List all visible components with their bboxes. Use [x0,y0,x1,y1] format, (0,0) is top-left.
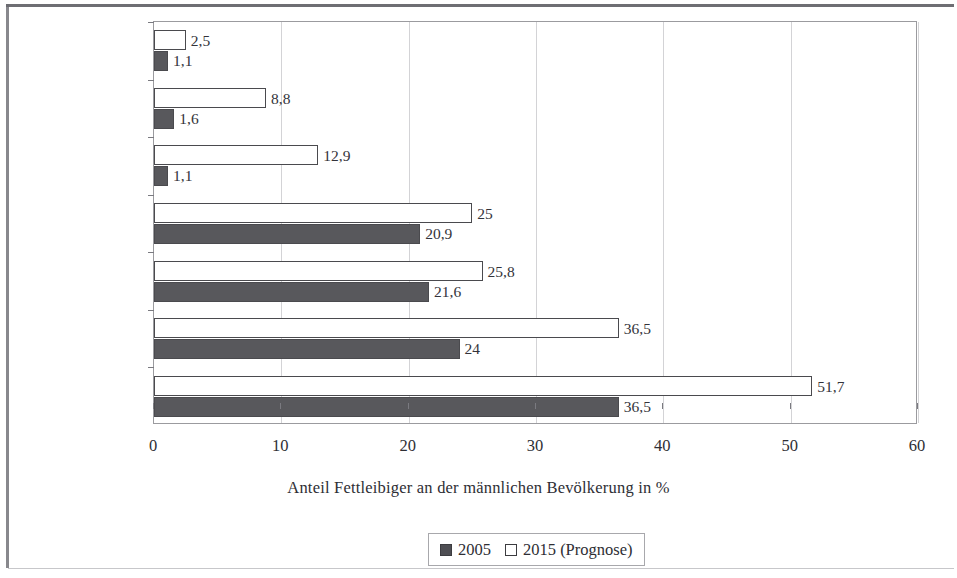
legend-label: 2005 [458,540,491,560]
bar-2005-philippinen [154,166,168,186]
bar-value-label-2015: 12,9 [323,148,350,164]
gridline-60 [918,22,919,423]
x-axis-tick-label-0: 0 [149,438,157,455]
bar-2015-philippinen [154,145,318,165]
x-axis-tick-10 [280,403,281,409]
x-axis-tick-label-10: 10 [272,438,289,455]
legend-entry[interactable]: 2005 [440,540,491,560]
bar-2015-usa [154,376,812,396]
x-axis-tick-20 [408,403,409,409]
y-axis-tick-4 [148,252,154,253]
bar-value-label-2005: 1,1 [173,168,192,184]
y-axis-tick-1 [148,80,154,81]
bar-2005-china [154,109,174,129]
bar-value-label-2015: 25,8 [488,264,515,280]
y-axis-tick-5 [148,310,154,311]
bar-value-label-2005: 21,6 [434,284,461,300]
gridline-40 [663,22,664,423]
bar-2005-indien [154,51,168,71]
legend-swatch-filled-icon [440,544,452,556]
bar-2015-indien [154,30,186,50]
plot-area: 2,51,18,81,612,91,12520,925,821,636,5245… [153,21,917,424]
bar-value-label-2015: 51,7 [817,379,844,395]
x-axis-title: Anteil Fettleibiger an der männlichen Be… [0,478,957,498]
x-axis-tick-label-60: 60 [909,438,926,455]
bar-2015-großbritannien [154,261,483,281]
bar-2015-mexiko [154,318,619,338]
legend-label: 2015 (Prognose) [523,540,633,560]
legend-swatch-open-icon [505,544,517,556]
x-axis-tick-60 [917,403,918,409]
bar-value-label-2005: 36,5 [624,399,651,415]
bar-2005-deutschland [154,224,420,244]
x-axis-tick-0 [153,403,154,409]
chart-page: IndienChinaPhilippinenDeutschlandGroßbri… [0,0,957,578]
y-axis-tick-0 [148,22,154,23]
y-axis-tick-6 [148,367,154,368]
x-axis-tick-label-40: 40 [654,438,671,455]
y-axis-tick-2 [148,137,154,138]
page-border-top [6,4,954,7]
x-axis-tick-label-30: 30 [527,438,544,455]
bar-value-label-2015: 8,8 [271,91,290,107]
bar-2005-großbritannien [154,282,429,302]
gridline-50 [791,22,792,423]
bar-2005-mexiko [154,339,460,359]
bar-2015-china [154,88,266,108]
bar-value-label-2015: 2,5 [191,33,210,49]
x-axis-tick-label-50: 50 [781,438,798,455]
gridline-30 [536,22,537,423]
bar-value-label-2005: 24 [465,341,481,357]
bar-value-label-2015: 36,5 [624,321,651,337]
bar-value-label-2015: 25 [477,206,493,222]
bar-2015-deutschland [154,203,472,223]
x-axis-tick-40 [662,403,663,409]
x-axis-tick-label-20: 20 [399,438,416,455]
bar-2005-usa [154,397,619,417]
x-axis-tick-50 [790,403,791,409]
bar-value-label-2005: 20,9 [425,226,452,242]
page-border-bottom [8,568,954,569]
legend-entry[interactable]: 2015 (Prognose) [505,540,633,560]
bar-value-label-2005: 1,1 [173,53,192,69]
y-axis-tick-3 [148,195,154,196]
bar-value-label-2005: 1,6 [179,111,198,127]
chart-legend: 20052015 (Prognose) [428,533,645,566]
x-axis-tick-30 [535,403,536,409]
